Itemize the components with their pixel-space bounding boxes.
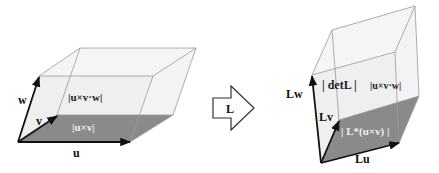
linear-map-volume-diagram: w v u |u×v·w| |u×v| L Lw Lv Lu <box>0 0 439 173</box>
label-w: w <box>18 93 27 107</box>
label-lv: Lv <box>319 110 333 124</box>
label-base-transformed: | L*(u×v) | <box>341 125 389 138</box>
label-base-area: |u×v| <box>72 121 95 133</box>
label-det: | detL | <box>322 78 357 92</box>
label-volume-transformed: |u×v·w| <box>370 80 401 91</box>
label-lu: Lu <box>355 152 370 166</box>
original-parallelepiped: w v u |u×v·w| |u×v| <box>18 48 196 160</box>
transformed-parallelepiped: Lw Lv Lu | detL | |u×v·w| | L*(u×v) | <box>286 6 419 166</box>
label-transform: L <box>226 102 234 116</box>
label-lw: Lw <box>286 87 303 101</box>
label-v: v <box>36 114 42 128</box>
label-volume: |u×v·w| <box>68 91 102 103</box>
transform-arrow: L <box>213 86 254 130</box>
label-u: u <box>73 146 80 160</box>
